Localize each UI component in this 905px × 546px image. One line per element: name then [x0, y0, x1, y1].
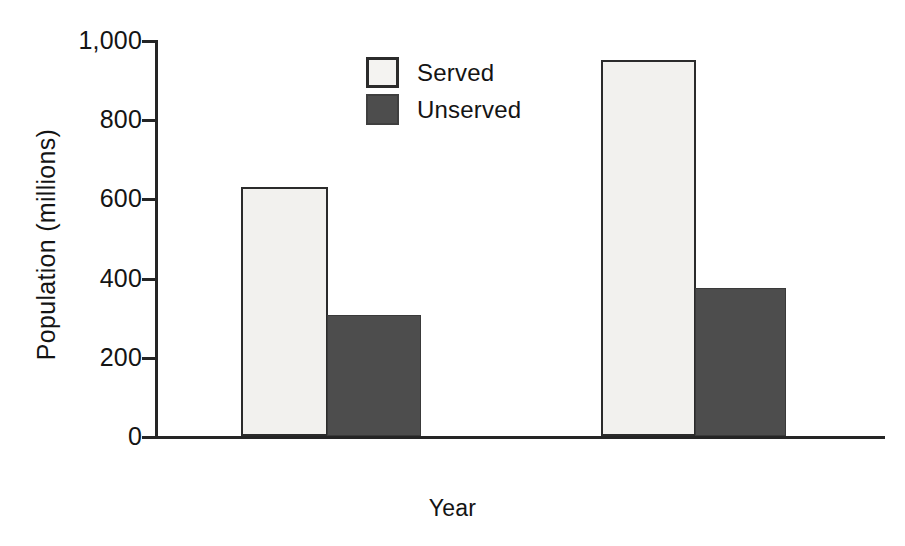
legend-label: Served [417, 59, 494, 87]
y-axis-title: Population (millions) [32, 95, 61, 395]
y-axis-line [155, 40, 158, 438]
y-tick-mark [142, 278, 155, 281]
y-tick-mark [142, 198, 155, 201]
bar-group1-served [241, 187, 328, 436]
bar-chart: Population (millions) Year 1,00080060040… [0, 0, 905, 546]
legend: ServedUnserved [366, 54, 521, 128]
y-tick-mark [142, 357, 155, 360]
legend-item-unserved: Unserved [366, 91, 521, 128]
bar-group2-unserved [695, 288, 786, 437]
bar-group2-served [601, 60, 696, 436]
y-tick-label: 800 [100, 105, 142, 134]
y-tick-label: 1,000 [78, 26, 142, 55]
y-tick-mark [142, 119, 155, 122]
y-tick-label: 0 [128, 422, 142, 451]
bar-group1-unserved [327, 315, 421, 436]
y-tick-label: 600 [100, 184, 142, 213]
y-tick-label: 400 [100, 263, 142, 292]
y-tick-mark [142, 40, 155, 43]
legend-item-served: Served [366, 54, 521, 91]
y-tick-mark [142, 436, 155, 439]
legend-swatch-unserved-icon [366, 94, 399, 125]
x-axis-line [155, 436, 885, 439]
legend-swatch-served-icon [366, 57, 399, 88]
legend-label: Unserved [417, 96, 521, 124]
x-axis-title: Year [0, 495, 905, 522]
y-tick-label: 200 [100, 342, 142, 371]
